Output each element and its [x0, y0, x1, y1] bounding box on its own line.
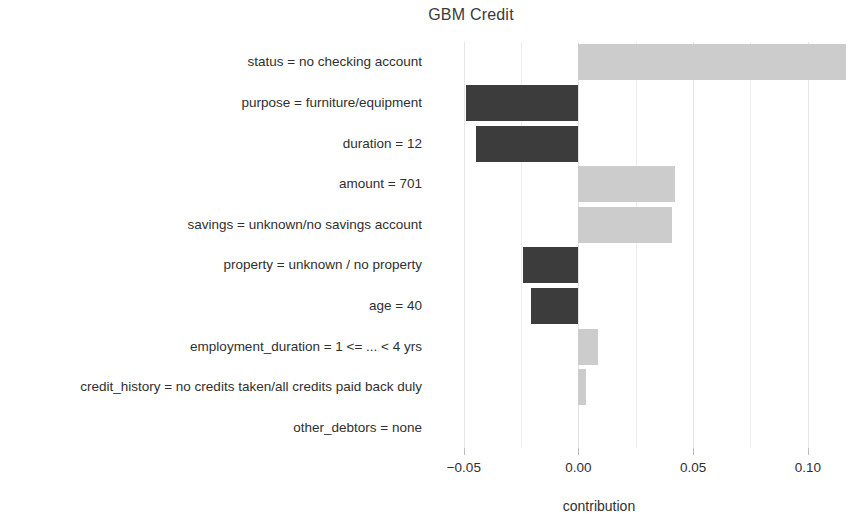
x-tick-mark	[808, 448, 809, 455]
x-tick-mark	[578, 448, 579, 455]
x-axis-title: contribution	[434, 498, 864, 514]
plot-panel	[434, 42, 864, 448]
x-tick-mark	[464, 448, 465, 455]
y-axis-labels: status = no checking accountpurpose = fu…	[0, 42, 428, 448]
bar	[531, 288, 579, 324]
x-tick-label: −0.05	[447, 460, 481, 475]
y-axis-label: status = no checking account	[248, 55, 423, 69]
gridline	[750, 42, 751, 448]
bar	[523, 247, 579, 283]
bar	[578, 166, 675, 202]
chart-title-text: GBM Credit	[428, 6, 514, 24]
y-axis-label: purpose = furniture/equipment	[242, 96, 423, 110]
bar	[476, 126, 578, 162]
chart-title: GBM Credit	[0, 6, 864, 24]
x-tick-label: 0.00	[565, 460, 591, 475]
y-axis-label: savings = unknown/no savings account	[187, 218, 422, 232]
x-tick-mark	[693, 448, 694, 455]
bar	[578, 44, 845, 80]
y-axis-label: age = 40	[369, 299, 422, 313]
x-tick-label: 0.10	[795, 460, 821, 475]
x-axis-title-text: contribution	[563, 498, 635, 514]
bar	[578, 369, 586, 405]
x-axis-ticks: −0.050.000.050.10	[434, 448, 864, 474]
gridline	[808, 42, 809, 448]
bar	[578, 329, 597, 365]
y-axis-label: employment_duration = 1 <= ... < 4 yrs	[190, 340, 422, 354]
chart-canvas: GBM Credit status = no checking accountp…	[0, 0, 864, 529]
y-axis-label: amount = 701	[339, 177, 422, 191]
gridline	[636, 42, 637, 448]
y-axis-label: other_debtors = none	[293, 421, 422, 435]
gridline	[693, 42, 694, 448]
bar	[466, 85, 579, 121]
bar	[578, 207, 672, 243]
y-axis-label: credit_history = no credits taken/all cr…	[80, 380, 422, 394]
y-axis-label: property = unknown / no property	[224, 258, 423, 272]
y-axis-label: duration = 12	[343, 137, 422, 151]
x-tick-label: 0.05	[680, 460, 706, 475]
